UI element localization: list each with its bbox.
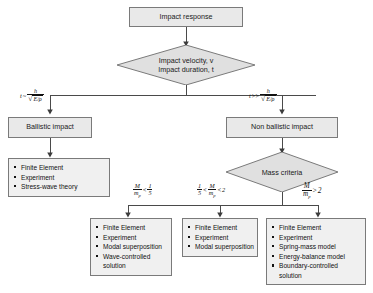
list-item: Modal superposition: [187, 242, 254, 252]
list-item: Finite Element: [95, 223, 168, 233]
edge-left-denominator: √E/ρ: [27, 94, 44, 103]
list-item: Experiment: [271, 233, 362, 243]
edge-left-radicand: E/ρ: [32, 95, 42, 103]
mass-low-operator: <: [143, 186, 147, 193]
list-mass-mid-methods[interactable]: Finite Element Experiment Modal superpos…: [182, 218, 258, 257]
list-item: Finite Element: [271, 223, 362, 233]
edge-left-operator: ~: [23, 92, 26, 99]
list-mass-mid-methods-items: Finite Element Experiment Modal superpos…: [187, 223, 254, 252]
edge-right-operator: >>: [252, 92, 259, 99]
node-impact-response[interactable]: Impact response: [129, 7, 243, 27]
list-item: Wave-controlled solution: [95, 252, 168, 271]
mass-high-ratio: M mp: [302, 183, 312, 198]
node-ballistic-impact[interactable]: Ballistic impact: [8, 117, 92, 138]
edge-right-radicand: E/ρ: [265, 95, 275, 103]
mass-high-ratio-den: mp: [302, 190, 312, 198]
list-mass-high-methods[interactable]: Finite Element Experiment Spring-mass mo…: [266, 218, 366, 285]
mass-low-ratio-den: mp: [133, 189, 142, 197]
list-mass-high-methods-items: Finite Element Experiment Spring-mass mo…: [271, 223, 362, 280]
edge-right-var: t: [249, 92, 251, 99]
mass-mid-ratio: M mp: [208, 183, 217, 197]
node-ballistic-impact-label: Ballistic impact: [26, 123, 74, 131]
flowchart-canvas: Impact response Impact velocity, v Impac…: [0, 0, 373, 293]
edge-label-mass-mid: 1 5 < M mp < 2: [197, 183, 225, 197]
edge-right-denominator: √E/ρ: [260, 94, 277, 103]
list-item: Experiment: [13, 173, 106, 183]
node-non-ballistic-impact[interactable]: Non ballistic impact: [226, 117, 338, 138]
mass-mid-operator-left: <: [203, 186, 207, 193]
edge-right-fraction: h √E/ρ: [260, 88, 277, 103]
mass-low-bound-den: 5: [147, 189, 152, 196]
decision-impact-criteria[interactable]: Impact velocity, v Impact duration, t: [117, 45, 255, 85]
edge-left-fraction: h √E/ρ: [27, 88, 44, 103]
mass-mid-operator-right: <: [217, 186, 221, 193]
mass-low-ratio: M mp: [133, 183, 142, 197]
edge-label-mass-high: M mp > 2: [302, 183, 321, 198]
list-mass-low-methods-items: Finite Element Experiment Modal superpos…: [95, 223, 168, 271]
list-item: Stress-wave theory: [13, 182, 106, 192]
mass-high-bound: 2: [318, 186, 322, 195]
mass-high-operator: >: [313, 186, 317, 195]
mass-mid-left-bound: 1 5: [197, 183, 202, 196]
list-item: Boundary-controlled solution: [271, 261, 362, 280]
list-item: Spring-mass model: [271, 242, 362, 252]
mass-low-bound: 1 5: [147, 183, 152, 196]
mass-high-ratio-num: M: [303, 183, 311, 190]
list-mass-low-methods[interactable]: Finite Element Experiment Modal superpos…: [90, 218, 172, 276]
node-impact-response-label: Impact response: [159, 13, 212, 21]
list-item: Experiment: [95, 233, 168, 243]
mass-mid-left-den: 5: [197, 189, 202, 196]
list-ballistic-methods-items: Finite Element Experiment Stress-wave th…: [13, 163, 106, 192]
edge-label-right-duration: t >> h √E/ρ: [249, 88, 277, 103]
edge-left-var: t: [20, 92, 22, 99]
edge-label-left-duration: t ~ h √E/ρ: [20, 88, 44, 103]
mass-mid-bound: 2: [222, 186, 225, 193]
list-item: Finite Element: [13, 163, 106, 173]
list-item: Experiment: [187, 233, 254, 243]
list-item: Finite Element: [187, 223, 254, 233]
mass-mid-ratio-den: mp: [208, 189, 217, 197]
list-ballistic-methods[interactable]: Finite Element Experiment Stress-wave th…: [8, 158, 110, 197]
node-non-ballistic-impact-label: Non ballistic impact: [251, 123, 313, 131]
list-item: Modal superposition: [95, 242, 168, 252]
list-item: Energy-balance model: [271, 252, 362, 262]
edge-label-mass-low: M mp < 1 5: [133, 183, 152, 197]
